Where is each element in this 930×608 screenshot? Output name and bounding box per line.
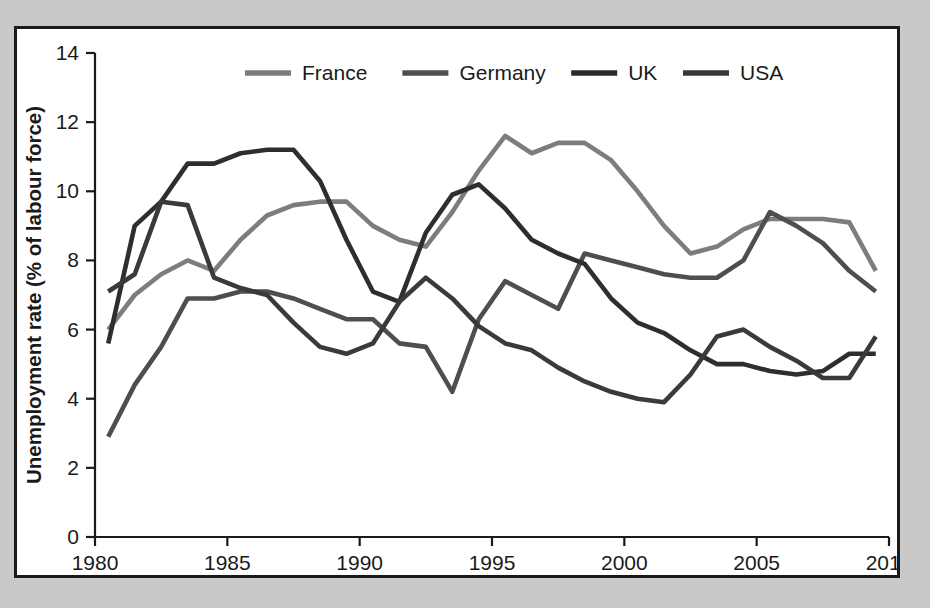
legend-label-france: France <box>302 61 367 84</box>
legend-item-uk: UK <box>571 61 657 84</box>
chart-plot-area: 024681012141980198519901995200020052010U… <box>17 29 897 575</box>
y-tick-label: 14 <box>56 41 80 64</box>
legend-label-usa: USA <box>740 61 783 84</box>
x-tick-label: 1995 <box>469 551 516 574</box>
x-tick-label: 1980 <box>72 551 119 574</box>
series-line-germany <box>108 212 876 437</box>
x-tick-label: 2005 <box>733 551 780 574</box>
chart-figure: 024681012141980198519901995200020052010U… <box>14 26 900 578</box>
legend-label-germany: Germany <box>459 61 546 84</box>
y-tick-label: 10 <box>56 179 79 202</box>
x-tick-label: 2010 <box>866 551 897 574</box>
y-tick-label: 12 <box>56 110 79 133</box>
x-tick-label: 2000 <box>601 551 648 574</box>
line-chart: 024681012141980198519901995200020052010U… <box>17 29 897 575</box>
x-tick-label: 1985 <box>204 551 251 574</box>
y-tick-label: 8 <box>67 248 79 271</box>
y-tick-label: 6 <box>67 318 79 341</box>
legend-item-germany: Germany <box>402 61 546 84</box>
y-tick-label: 2 <box>67 456 79 479</box>
y-tick-label: 0 <box>67 525 79 548</box>
legend-label-uk: UK <box>628 61 657 84</box>
legend-item-usa: USA <box>683 61 783 84</box>
x-tick-label: 1990 <box>336 551 383 574</box>
legend-item-france: France <box>245 61 367 84</box>
y-axis-title: Unemployment rate (% of labour force) <box>22 106 45 484</box>
y-tick-label: 4 <box>67 387 79 410</box>
